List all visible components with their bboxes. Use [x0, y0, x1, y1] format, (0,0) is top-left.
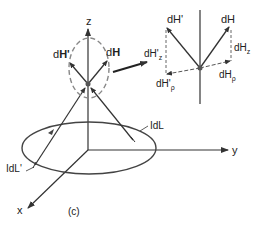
- field-point: [86, 82, 91, 87]
- line-from-idl: [91, 88, 133, 140]
- dH-vector: [88, 61, 107, 84]
- idl-label: IdL: [150, 120, 164, 131]
- svg-text:dH'ρ: dH'ρ: [156, 78, 175, 92]
- dH-prime-label: dH': [53, 48, 70, 60]
- inset-dH-prime-label: dH': [167, 13, 183, 25]
- line-from-idl-prime: [35, 88, 85, 165]
- dH-label: dH: [106, 46, 120, 58]
- inset-dHrho-label: dH: [219, 69, 232, 80]
- z-axis-label: z: [86, 15, 92, 27]
- current-loop: [22, 122, 156, 174]
- inset-decomposition: dH dH' dHz dH'z dHρ dH'ρ: [144, 10, 251, 104]
- inset-dHz-sub: z: [247, 48, 251, 55]
- inset-dHprime-rho-sub: ρ: [171, 84, 175, 92]
- inset-dHz-label: dH: [234, 42, 247, 53]
- inset-dHrho-sub: ρ: [232, 75, 236, 83]
- x-axis-label: x: [17, 204, 23, 216]
- caption: (c): [68, 206, 80, 217]
- inset-dH-prime-rho: [167, 68, 200, 74]
- inset-dHprime-z-label: dH': [144, 48, 159, 59]
- svg-text:dHz: dHz: [234, 42, 251, 55]
- inset-dHprime-rho-label: dH': [156, 78, 171, 89]
- inset-dHprime-z-sub: z: [159, 54, 163, 61]
- biot-savart-diagram: z y x dH dH' IdL IdL' (c) dH dH' dHz dH'…: [0, 0, 262, 229]
- svg-text:dH': dH': [167, 13, 183, 25]
- idl-prime-label: IdL': [6, 163, 22, 174]
- y-axis-label: y: [232, 144, 238, 156]
- svg-text:dH'z: dH'z: [144, 48, 163, 61]
- svg-text:dHρ: dHρ: [219, 69, 236, 83]
- inset-dH-prime: [167, 28, 200, 68]
- svg-text:dH: dH: [221, 13, 235, 25]
- x-axis: [28, 150, 88, 208]
- loop-direction-arrow: [48, 129, 54, 135]
- dH-prime-vector: [70, 63, 88, 84]
- callout-pointer: [113, 62, 147, 72]
- inset-dH-label: dH: [221, 13, 235, 25]
